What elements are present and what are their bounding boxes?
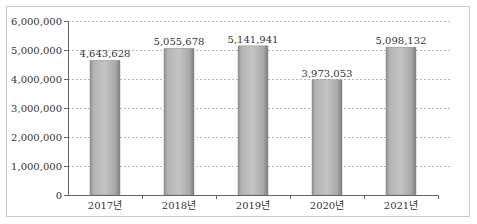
y-tick-label: 2,000,000: [11, 132, 62, 143]
data-label: 3,973,053: [302, 68, 353, 79]
bar-chart: 01,000,0002,000,0003,000,0004,000,0005,0…: [0, 0, 477, 224]
y-tick-label: 4,000,000: [11, 74, 62, 85]
x-tick-label: 2019년: [236, 200, 270, 211]
data-label: 4,643,628: [80, 48, 131, 59]
x-tick-label: 2018년: [162, 200, 196, 211]
x-tick-label: 2020년: [310, 200, 344, 211]
x-tick-label: 2021년: [384, 200, 418, 211]
data-label: 5,141,941: [228, 34, 279, 45]
x-tick-labels: 2017년2018년2019년2020년2021년: [88, 200, 418, 211]
data-label: 5,098,132: [376, 35, 427, 46]
bar-2018: [164, 48, 194, 195]
y-tick-labels: 01,000,0002,000,0003,000,0004,000,0005,0…: [11, 16, 62, 201]
data-label: 5,055,678: [154, 36, 205, 47]
bar-2019: [238, 46, 268, 195]
y-tick-label: 3,000,000: [11, 103, 62, 114]
x-tick-label: 2017년: [88, 200, 122, 211]
bar-2017: [90, 60, 120, 195]
bars: [90, 46, 416, 195]
bar-2021: [386, 47, 416, 195]
y-tick-label: 0: [56, 190, 62, 201]
y-tick-label: 5,000,000: [11, 45, 62, 56]
bar-2020: [312, 80, 342, 195]
y-tick-label: 1,000,000: [11, 161, 62, 172]
y-tick-label: 6,000,000: [11, 16, 62, 27]
